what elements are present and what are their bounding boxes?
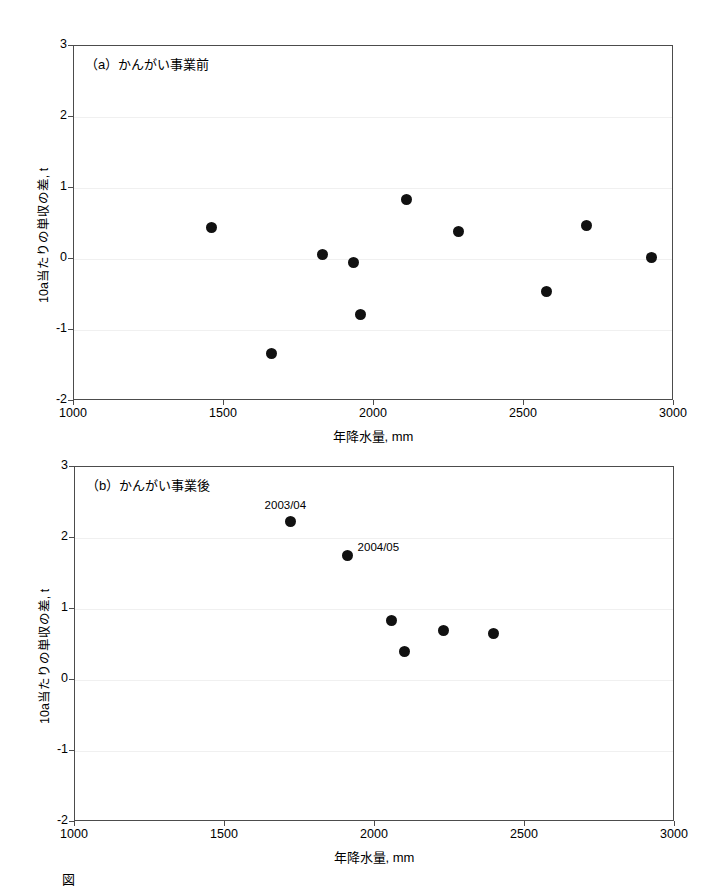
y-tick-mark-b--1 xyxy=(69,750,74,751)
gridline-y-0 xyxy=(75,680,673,681)
data-point xyxy=(285,516,296,527)
y-tick-label-b--2: -2 xyxy=(40,813,68,827)
y-tick-mark-b-2 xyxy=(69,537,74,538)
x-tick-mark-b-2000 xyxy=(374,821,375,826)
x-tick-mark-b-1500 xyxy=(224,821,225,826)
figure-container: -2-1012310001500200025003000（a）かんがい事業前年降… xyxy=(0,0,719,896)
data-point xyxy=(399,646,410,657)
x-tick-mark-a-2500 xyxy=(523,400,524,405)
gridline-y-0 xyxy=(74,259,672,260)
y-tick-label-a--1: -1 xyxy=(39,321,67,335)
x-axis-title-b: 年降水量, mm xyxy=(74,847,674,866)
y-tick-mark-b-0 xyxy=(69,679,74,680)
data-point xyxy=(348,257,359,268)
x-tick-mark-b-3000 xyxy=(674,821,675,826)
x-tick-label-b-2000: 2000 xyxy=(344,827,404,841)
data-point xyxy=(488,628,499,639)
data-point-label: 2003/04 xyxy=(265,499,307,511)
x-tick-label-a-2000: 2000 xyxy=(343,406,403,420)
panel-title-a: （a）かんがい事業前 xyxy=(85,54,209,73)
gridline-y-2 xyxy=(75,538,673,539)
data-point xyxy=(355,309,366,320)
data-point xyxy=(266,348,277,359)
y-tick-mark-b-3 xyxy=(69,466,74,467)
x-tick-label-b-1000: 1000 xyxy=(44,827,104,841)
y-tick-mark-a-3 xyxy=(68,45,73,46)
x-tick-label-b-1500: 1500 xyxy=(194,827,254,841)
y-tick-label-b-3: 3 xyxy=(40,458,68,472)
gridline-y-2 xyxy=(74,117,672,118)
data-point xyxy=(541,286,552,297)
data-point xyxy=(438,625,449,636)
figure-caption: 図 xyxy=(62,869,662,895)
data-point xyxy=(206,222,217,233)
y-tick-label-a--2: -2 xyxy=(39,392,67,406)
x-tick-label-a-1500: 1500 xyxy=(193,406,253,420)
y-tick-label-b--1: -1 xyxy=(40,742,68,756)
data-point xyxy=(386,615,397,626)
panel-title-b: （b）かんがい事業後 xyxy=(86,475,210,494)
y-tick-mark-a-1 xyxy=(68,187,73,188)
x-tick-label-a-2500: 2500 xyxy=(493,406,553,420)
x-tick-label-b-2500: 2500 xyxy=(494,827,554,841)
data-point-label: 2004/05 xyxy=(358,541,400,553)
x-tick-mark-a-1000 xyxy=(73,400,74,405)
gridline-y--1 xyxy=(74,330,672,331)
data-point xyxy=(317,249,328,260)
x-tick-mark-b-2500 xyxy=(524,821,525,826)
x-axis-title-a: 年降水量, mm xyxy=(73,426,673,445)
y-tick-label-a-2: 2 xyxy=(39,108,67,122)
x-tick-mark-a-1500 xyxy=(223,400,224,405)
gridline-y-1 xyxy=(75,609,673,610)
data-point xyxy=(581,220,592,231)
x-tick-label-a-3000: 3000 xyxy=(643,406,703,420)
y-tick-mark-b-1 xyxy=(69,608,74,609)
y-axis-title-a: 10a当たりの単収の差, t xyxy=(33,167,52,302)
data-point xyxy=(342,550,353,561)
x-tick-mark-b-1000 xyxy=(74,821,75,826)
x-tick-label-a-1000: 1000 xyxy=(43,406,103,420)
gridline-y-1 xyxy=(74,188,672,189)
y-tick-mark-a--1 xyxy=(68,329,73,330)
y-tick-label-b-2: 2 xyxy=(40,529,68,543)
y-tick-label-a-3: 3 xyxy=(39,37,67,51)
x-tick-mark-a-2000 xyxy=(373,400,374,405)
x-tick-label-b-3000: 3000 xyxy=(644,827,704,841)
x-tick-mark-a-3000 xyxy=(673,400,674,405)
y-tick-mark-a-0 xyxy=(68,258,73,259)
gridline-y--1 xyxy=(75,751,673,752)
plot-frame-b xyxy=(74,466,674,821)
data-point xyxy=(646,252,657,263)
y-axis-title-b: 10a当たりの単収の差, t xyxy=(34,588,53,723)
y-tick-mark-a-2 xyxy=(68,116,73,117)
